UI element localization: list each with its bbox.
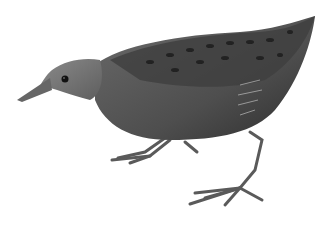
legs [112,132,262,205]
bird-figure [0,0,330,240]
beak [17,78,52,102]
eye [62,76,69,83]
bird-illustration [0,0,330,240]
